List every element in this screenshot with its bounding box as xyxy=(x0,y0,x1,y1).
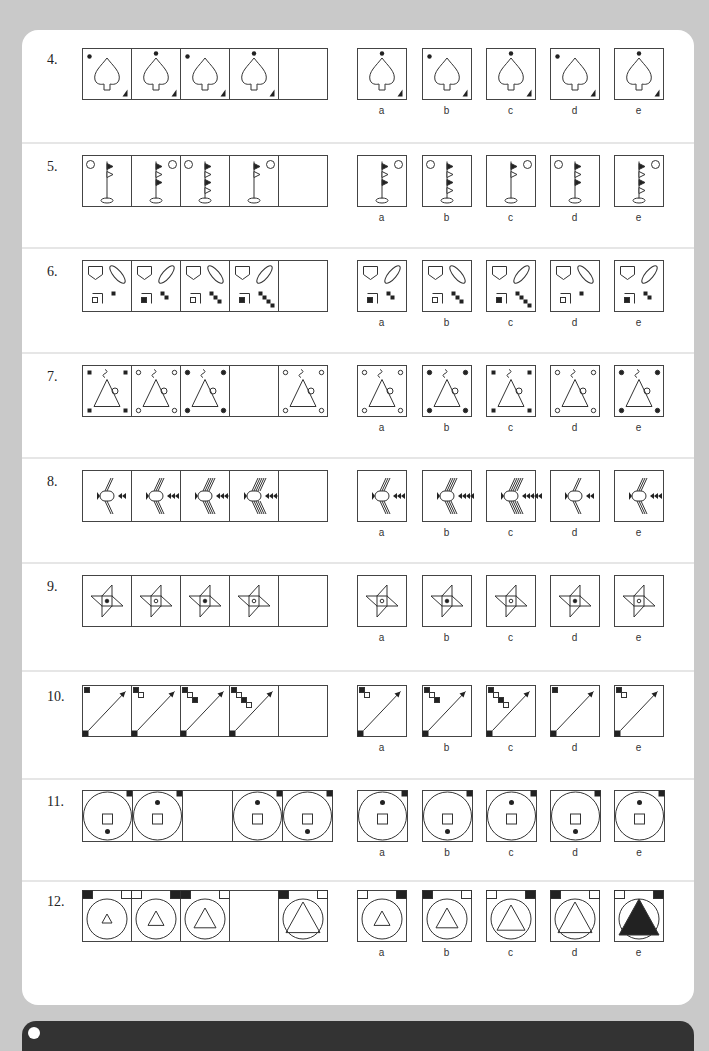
corner-square-icon xyxy=(423,731,429,737)
stair-square-icon xyxy=(504,703,509,708)
corner-block-icon xyxy=(526,891,536,899)
center-dot-icon xyxy=(445,599,449,603)
answer-option-d[interactable]: d xyxy=(550,365,600,436)
answer-option-a[interactable]: a xyxy=(357,575,407,646)
dot-icon xyxy=(105,829,110,834)
stair-square-icon xyxy=(188,693,193,698)
answer-option-a[interactable]: a xyxy=(357,790,408,861)
small-square-icon xyxy=(625,298,630,303)
stair-square-icon xyxy=(460,300,464,304)
answer-option-d[interactable]: d xyxy=(550,48,600,119)
sequence-frame xyxy=(279,366,328,417)
empty-answer-frame[interactable] xyxy=(279,471,328,522)
answer-option-d[interactable]: d xyxy=(550,790,601,861)
corner-square-icon xyxy=(492,371,496,375)
answer-option-c[interactable]: c xyxy=(486,890,536,961)
corner-square-icon xyxy=(83,731,89,737)
stair-square-icon xyxy=(218,300,222,304)
answer-option-d[interactable]: d xyxy=(550,155,600,226)
stair-square-icon xyxy=(425,688,430,693)
sequence-frame xyxy=(181,261,230,312)
answer-option-a[interactable]: a xyxy=(357,260,407,331)
corner-block-icon xyxy=(132,891,142,899)
dot-icon xyxy=(573,829,578,834)
answer-option-a[interactable]: a xyxy=(357,155,407,226)
corner-circle-icon xyxy=(619,370,623,374)
sequence-strip xyxy=(82,470,328,522)
answer-option-a[interactable]: a xyxy=(357,685,407,756)
answer-option-e[interactable]: e xyxy=(614,890,664,961)
dot-icon xyxy=(252,51,256,55)
answer-option-d[interactable]: d xyxy=(550,890,600,961)
answer-option-c[interactable]: c xyxy=(486,155,536,226)
answer-option-b[interactable]: b xyxy=(422,575,472,646)
answer-option-a[interactable]: a xyxy=(357,48,407,119)
empty-answer-frame[interactable] xyxy=(230,891,279,942)
answer-option-b[interactable]: b xyxy=(422,155,472,226)
answer-option-c[interactable]: c xyxy=(486,685,536,756)
empty-answer-frame[interactable] xyxy=(279,686,328,737)
stair-square-icon xyxy=(516,292,520,296)
answer-option-c[interactable]: c xyxy=(486,48,536,119)
empty-answer-frame[interactable] xyxy=(183,791,233,842)
answer-option-a[interactable]: a xyxy=(357,890,407,961)
corner-square-icon xyxy=(467,791,473,797)
answer-option-c[interactable]: c xyxy=(486,260,536,331)
answer-option-e[interactable]: e xyxy=(614,155,664,226)
answer-option-a[interactable]: a xyxy=(357,365,407,436)
empty-answer-frame[interactable] xyxy=(279,576,328,627)
option-label: d xyxy=(572,422,578,433)
center-dot-icon xyxy=(252,599,256,603)
question-number: 8. xyxy=(47,474,58,490)
answer-option-b[interactable]: b xyxy=(422,685,472,756)
answer-option-a[interactable]: a xyxy=(357,470,407,541)
answer-option-c[interactable]: c xyxy=(486,470,536,541)
option-label: d xyxy=(572,212,578,223)
option-label: b xyxy=(444,947,450,958)
answer-option-b[interactable]: b xyxy=(422,470,472,541)
answer-option-e[interactable]: e xyxy=(614,470,664,541)
answer-option-e[interactable]: e xyxy=(614,575,664,646)
row-separator xyxy=(22,880,694,882)
answer-option-b[interactable]: b xyxy=(422,48,472,119)
dot-icon xyxy=(427,54,431,58)
corner-square-icon xyxy=(358,731,364,737)
option-label: b xyxy=(444,105,450,116)
option-label: e xyxy=(636,105,642,116)
stair-square-icon xyxy=(365,693,370,698)
answer-option-e[interactable]: e xyxy=(614,260,664,331)
answer-option-d[interactable]: d xyxy=(550,260,600,331)
question-number: 10. xyxy=(47,689,65,705)
empty-answer-frame[interactable] xyxy=(230,366,279,417)
sequence-frame xyxy=(132,471,181,522)
answer-option-e[interactable]: e xyxy=(614,685,664,756)
empty-answer-frame[interactable] xyxy=(279,261,328,312)
answer-option-b[interactable]: b xyxy=(422,790,473,861)
stair-square-icon xyxy=(360,688,365,693)
stair-square-icon xyxy=(452,292,456,296)
answer-option-c[interactable]: c xyxy=(486,365,536,436)
stair-square-icon xyxy=(210,292,214,296)
option-label: e xyxy=(636,632,642,643)
answer-option-c[interactable]: c xyxy=(486,790,537,861)
answer-option-d[interactable]: d xyxy=(550,685,600,756)
option-label: a xyxy=(379,742,385,753)
stair-square-icon xyxy=(520,296,524,300)
option-label: b xyxy=(444,527,450,538)
empty-answer-frame[interactable] xyxy=(279,156,328,207)
answer-option-b[interactable]: b xyxy=(422,365,472,436)
answer-option-c[interactable]: c xyxy=(486,575,536,646)
answer-option-d[interactable]: d xyxy=(550,575,600,646)
answer-option-e[interactable]: e xyxy=(614,365,664,436)
question-number: 5. xyxy=(47,159,58,175)
answer-option-e[interactable]: e xyxy=(614,790,665,861)
answer-option-e[interactable]: e xyxy=(614,48,664,119)
answer-option-b[interactable]: b xyxy=(422,260,472,331)
empty-answer-frame[interactable] xyxy=(279,49,328,100)
option-label: b xyxy=(444,212,450,223)
answer-option-d[interactable]: d xyxy=(550,470,600,541)
stair-square-icon xyxy=(134,688,139,693)
corner-block-icon xyxy=(487,891,497,899)
answer-option-b[interactable]: b xyxy=(422,890,472,961)
corner-circle-icon xyxy=(619,408,623,412)
